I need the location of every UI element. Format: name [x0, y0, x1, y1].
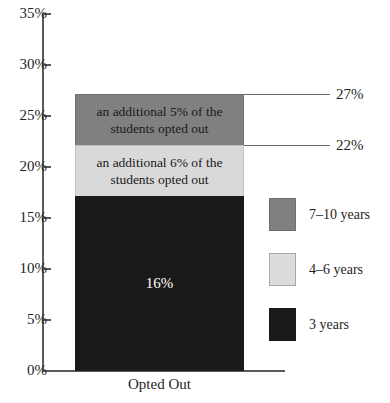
- callout-label-22: 22%: [336, 138, 364, 153]
- legend-label-7-10-years: 7–10 years: [309, 207, 370, 223]
- y-tick-label-25: 25%: [0, 108, 47, 123]
- bar-segment-4-6-years-label: an additional 6% of the students opted o…: [76, 154, 243, 188]
- y-tick-label-15: 15%: [0, 210, 47, 225]
- y-tick-label-10: 10%: [0, 261, 47, 276]
- bar-segment-3-years[interactable]: 16%: [75, 196, 244, 371]
- callout-label-27: 27%: [336, 87, 364, 102]
- legend-swatch-4-6-years: [269, 253, 296, 286]
- legend-item-7-10-years[interactable]: 7–10 years: [269, 198, 370, 231]
- stacked-bar-chart: 35% 30% 25% 20% 15% 10% 5% 0% an additio…: [0, 0, 390, 403]
- legend-label-4-6-years: 4–6 years: [309, 262, 363, 278]
- legend-item-4-6-years[interactable]: 4–6 years: [269, 253, 363, 286]
- legend-item-3-years[interactable]: 3 years: [269, 308, 349, 341]
- callout-leader-line-22: [244, 145, 330, 146]
- legend-swatch-3-years: [269, 308, 296, 341]
- bar-segment-7-10-years[interactable]: an additional 5% of the students opted o…: [75, 94, 244, 146]
- callout-leader-line-27: [244, 94, 330, 95]
- bar-segment-3-years-label: 16%: [140, 275, 180, 292]
- y-tick-label-20: 20%: [0, 159, 47, 174]
- bar-segment-4-6-years[interactable]: an additional 6% of the students opted o…: [75, 145, 244, 197]
- y-tick-label-5: 5%: [0, 312, 47, 327]
- legend-label-3-years: 3 years: [309, 317, 349, 333]
- y-tick-label-35: 35%: [0, 6, 47, 21]
- x-axis-category-label: Opted Out: [75, 375, 244, 393]
- bar-segment-7-10-years-label: an additional 5% of the students opted o…: [76, 103, 243, 137]
- y-tick-label-0: 0%: [0, 363, 47, 378]
- legend-swatch-7-10-years: [269, 198, 296, 231]
- y-tick-label-30: 30%: [0, 57, 47, 72]
